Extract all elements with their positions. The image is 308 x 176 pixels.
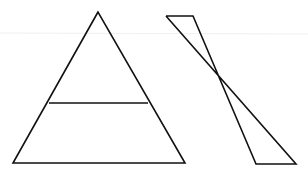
large-triangle xyxy=(13,12,185,163)
faint-guide-line xyxy=(0,33,308,34)
diagram-svg xyxy=(0,0,308,176)
crossed-hourglass-shape xyxy=(166,16,296,164)
diagram-canvas xyxy=(0,0,308,176)
